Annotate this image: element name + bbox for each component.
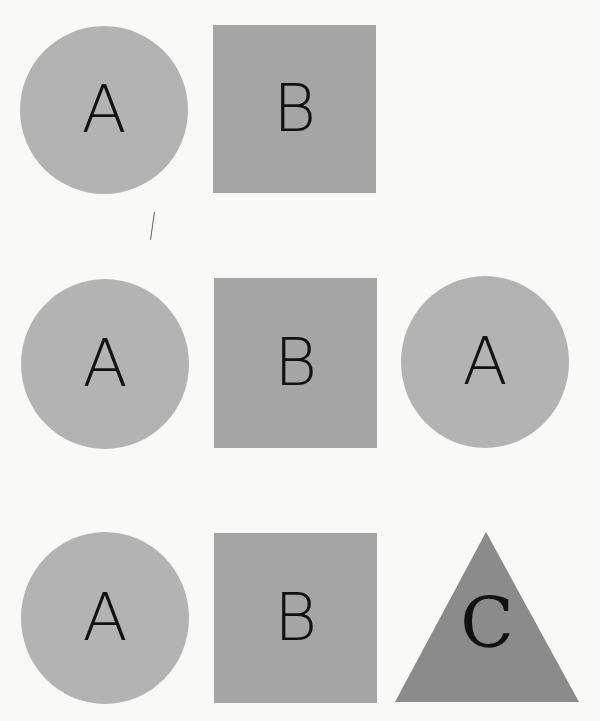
shape-label: C [395, 588, 579, 658]
